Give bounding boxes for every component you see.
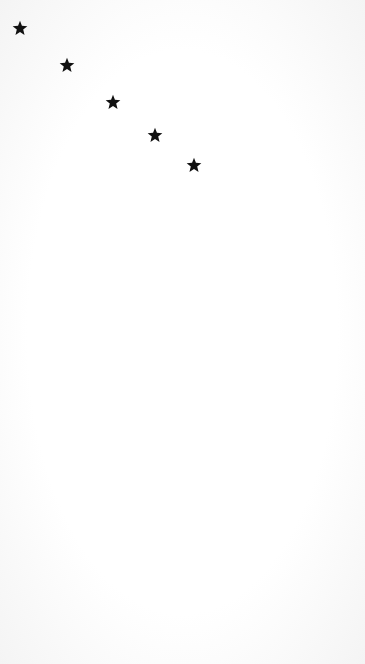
- star-icon: [147, 127, 163, 143]
- star-icon: [59, 57, 75, 73]
- star-icon: [105, 94, 121, 110]
- star-icon: [12, 20, 28, 36]
- star-icon: [186, 157, 202, 173]
- canvas: [0, 0, 365, 664]
